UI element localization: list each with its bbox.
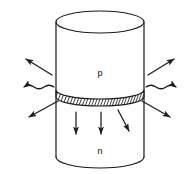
n-region-label: n xyxy=(97,146,102,156)
diagram-background xyxy=(0,0,188,174)
figure-canvas: p n xyxy=(0,0,188,174)
pn-junction-diagram: p n xyxy=(0,0,188,174)
p-region-label: p xyxy=(97,68,102,78)
